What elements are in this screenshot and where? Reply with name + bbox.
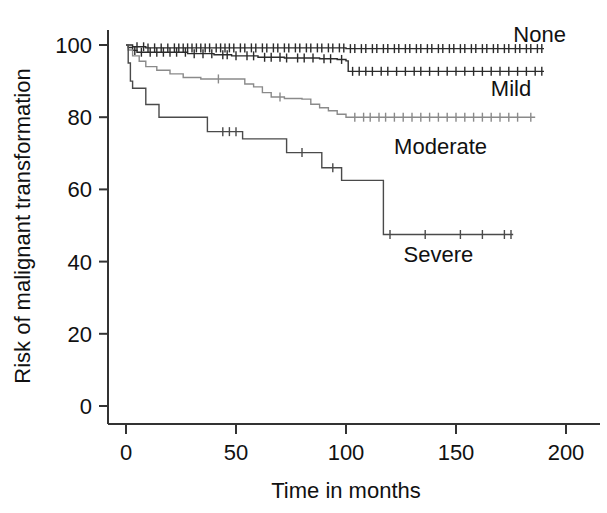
series-label-severe: Severe xyxy=(404,242,474,267)
x-axis-tick-label: 150 xyxy=(438,440,475,465)
y-axis-title: Risk of malignant transformation xyxy=(10,68,35,383)
y-axis-tick-label: 80 xyxy=(68,105,92,130)
x-axis-tick-label: 200 xyxy=(548,440,585,465)
y-axis-tick-label: 0 xyxy=(80,394,92,419)
kaplan-meier-chart: NoneMildModerateSevere 02040608010005010… xyxy=(0,0,607,513)
series-label-none: None xyxy=(513,22,566,47)
x-axis-tick-label: 50 xyxy=(224,440,248,465)
x-axis-tick-label: 0 xyxy=(120,440,132,465)
y-axis-tick-label: 100 xyxy=(55,33,92,58)
y-axis-tick-label: 60 xyxy=(68,177,92,202)
series-label-mild: Mild xyxy=(491,76,531,101)
x-axis-title: Time in months xyxy=(271,478,421,503)
y-axis-tick-label: 40 xyxy=(68,250,92,275)
x-axis-tick-label: 100 xyxy=(328,440,365,465)
series-label-moderate: Moderate xyxy=(394,134,487,159)
y-axis-tick-label: 20 xyxy=(68,322,92,347)
chart-page: NoneMildModerateSevere 02040608010005010… xyxy=(0,0,607,513)
